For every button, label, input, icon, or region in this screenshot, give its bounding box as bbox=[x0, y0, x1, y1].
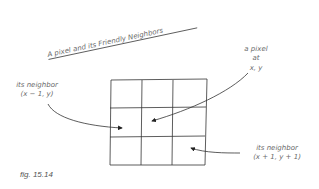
bottom-right-neighbor-label: its neighbor (x + 1, y + 1) bbox=[253, 144, 301, 161]
figure-caption: fig. 15.14 bbox=[20, 170, 53, 179]
svg-text:A pixel and its Friendly Neigh: A pixel and its Friendly Neighbors bbox=[46, 27, 164, 60]
title: A pixel and its Friendly Neighbors bbox=[46, 20, 197, 60]
pixel-neighbors-diagram: A pixel and its Friendly Neighbors a pix… bbox=[0, 0, 319, 189]
pixel-arrow bbox=[152, 73, 248, 121]
left-neighbor-label: its neighbor (x − 1, y) bbox=[16, 81, 59, 98]
pixel-label: a pixel at x, y bbox=[244, 45, 267, 72]
svg-text:its neighbor: its neighbor bbox=[256, 144, 299, 152]
svg-text:at: at bbox=[252, 54, 259, 62]
pixel-grid bbox=[110, 79, 207, 165]
svg-text:a pixel: a pixel bbox=[244, 45, 267, 53]
svg-text:(x − 1, y): (x − 1, y) bbox=[21, 90, 54, 98]
bottom-right-neighbor-arrow bbox=[191, 148, 240, 153]
svg-text:x, y: x, y bbox=[249, 64, 264, 72]
svg-text:(x + 1, y + 1): (x + 1, y + 1) bbox=[253, 153, 301, 161]
svg-text:its neighbor: its neighbor bbox=[16, 81, 59, 89]
